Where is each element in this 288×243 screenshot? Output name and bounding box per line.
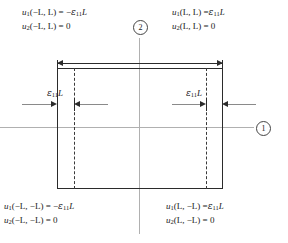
width-dimension-line — [57, 63, 223, 64]
length-symbol: L — [197, 88, 202, 98]
arrow-right-icon — [217, 60, 223, 66]
bc-top-right-u1: u1(L, L) =ε11L — [172, 6, 225, 20]
axis-1-marker: 1 — [256, 121, 271, 136]
right-gap-leader-inner — [228, 104, 256, 105]
deformed-edge-right — [222, 68, 223, 189]
length-symbol: L — [58, 88, 63, 98]
bc-bottom-right-u2: u2(L, −L) = 0 — [166, 214, 224, 228]
length-symbol: L — [82, 7, 87, 17]
bc-top-left-u1: u1(−L, L) = −ε11L — [22, 6, 87, 20]
bc-equation-bottom-right: u1(L, −L) =ε11L u2(L, −L) = 0 — [166, 200, 224, 228]
length-symbol: L — [219, 201, 224, 211]
horizontal-axis-line — [0, 127, 254, 128]
right-gap-tick-deformed — [222, 98, 223, 111]
deformed-edge-bottom — [57, 188, 223, 189]
arrow-left-icon — [57, 60, 63, 66]
argument-list: (−L, L) — [30, 7, 57, 17]
left-gap-leader-outer — [22, 104, 52, 105]
argument-list: (L, −L) — [174, 201, 201, 211]
bc-equation-top-right: u1(L, L) =ε11L u2(L, L) = 0 — [172, 6, 225, 34]
equals-sign: = − — [59, 7, 71, 17]
bc-top-right-u2: u2(L, L) = 0 — [172, 20, 225, 34]
bc-equation-top-left: u1(−L, L) = −ε11L u2(−L, L) = 0 — [22, 6, 87, 34]
argument-list: (L, −L) — [174, 215, 201, 225]
argument-list: (−L, L) — [30, 21, 57, 31]
bc-bottom-left-u1: u1(−L, −L) = −ε11L — [4, 200, 74, 214]
deformed-edge-top — [57, 68, 223, 69]
bc-equation-bottom-left: u1(−L, −L) = −ε11L u2(−L, −L) = 0 — [4, 200, 74, 228]
original-edge-right — [206, 68, 207, 189]
deformed-edge-left — [57, 68, 58, 189]
left-gap-label: ε11L — [47, 88, 63, 98]
right-gap-label: ε11L — [186, 88, 202, 98]
right-gap-leader-outer — [172, 104, 200, 105]
right-hand-side: = 0 — [203, 215, 215, 225]
argument-list: (L, L) — [180, 7, 202, 17]
right-gap-tick-original — [206, 98, 207, 111]
left-gap-tick-original — [74, 98, 75, 111]
left-gap-tick-deformed — [57, 98, 58, 111]
argument-list: (L, L) — [180, 21, 202, 31]
bc-bottom-left-u2: u2(−L, −L) = 0 — [4, 214, 74, 228]
right-hand-side: = 0 — [59, 21, 71, 31]
left-gap-leader-inner — [80, 104, 108, 105]
bc-bottom-right-u1: u1(L, −L) =ε11L — [166, 200, 224, 214]
right-hand-side: = 0 — [46, 215, 58, 225]
axis-2-marker: 2 — [133, 20, 148, 35]
length-symbol: L — [69, 201, 74, 211]
argument-list: (−L, −L) — [12, 215, 44, 225]
right-hand-side: = 0 — [204, 21, 216, 31]
original-edge-left — [74, 68, 75, 189]
figure-canvas: 2 1 ε11L ε11L u1(−L, L) = −ε11L u2(−L, L… — [0, 0, 288, 243]
length-symbol: L — [220, 7, 225, 17]
argument-list: (−L, −L) — [12, 201, 44, 211]
bc-top-left-u2: u2(−L, L) = 0 — [22, 20, 87, 34]
equals-sign: = − — [46, 201, 58, 211]
